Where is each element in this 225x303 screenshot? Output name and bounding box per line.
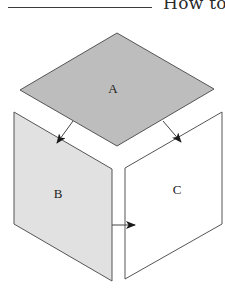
face-a-label: A: [108, 81, 118, 96]
cube-faces-diagram: A B C: [0, 0, 225, 303]
arrow-a-to-c: [163, 121, 181, 142]
arrow-a-to-b: [57, 121, 73, 143]
face-b-label: B: [54, 186, 63, 201]
face-b: B: [14, 112, 112, 281]
face-a: A: [20, 33, 214, 146]
face-c-label: C: [173, 182, 182, 197]
face-c: C: [125, 112, 222, 279]
